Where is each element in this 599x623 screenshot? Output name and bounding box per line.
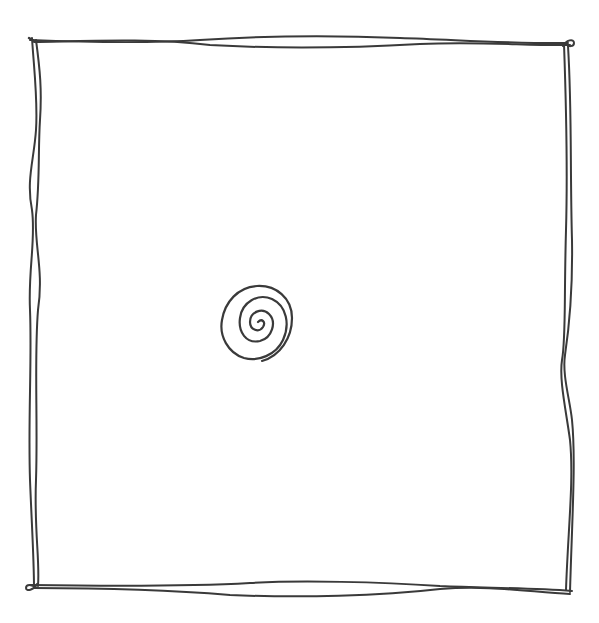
frame-corner-tick-tl: [29, 38, 36, 42]
sketch-drawing: [0, 0, 599, 623]
frame-corner-loop-bl: [26, 584, 37, 590]
spiral-stroke: [221, 286, 292, 361]
sketch-canvas: [0, 0, 599, 623]
square-frame: [26, 36, 574, 596]
spiral: [221, 286, 292, 361]
frame-bottom-stroke-2: [34, 588, 570, 597]
